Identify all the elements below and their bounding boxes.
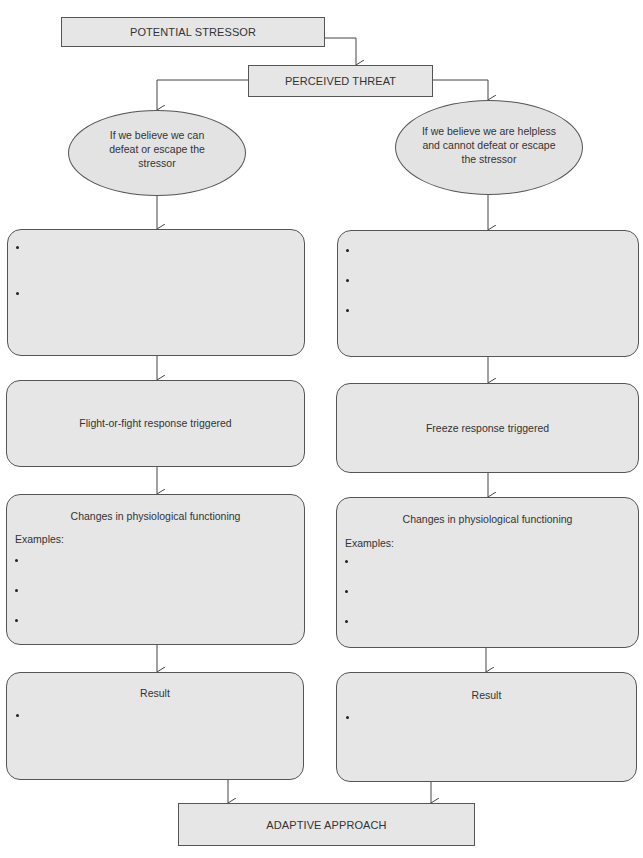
left-triggers-box bbox=[7, 229, 305, 356]
left-condition-label: If we believe we can defeat or escape th… bbox=[97, 128, 217, 170]
right-response-label: Freeze response triggered bbox=[337, 422, 638, 434]
adaptive-approach-label: ADAPTIVE APPROACH bbox=[266, 819, 386, 831]
left-examples-label: Examples: bbox=[15, 533, 64, 545]
potential-stressor-label: POTENTIAL STRESSOR bbox=[130, 26, 256, 38]
right-triggers-box bbox=[337, 230, 639, 357]
right-response-box: Freeze response triggered bbox=[336, 383, 639, 473]
right-changes-title: Changes in physiological functioning bbox=[337, 513, 638, 525]
left-changes-title: Changes in physiological functioning bbox=[7, 510, 304, 522]
bullet-point bbox=[346, 309, 349, 312]
potential-stressor-box: POTENTIAL STRESSOR bbox=[61, 17, 325, 47]
bullet-point bbox=[346, 279, 349, 282]
adaptive-approach-box: ADAPTIVE APPROACH bbox=[178, 803, 475, 846]
left-result-box: Result bbox=[6, 672, 304, 780]
bullet-point bbox=[345, 560, 348, 563]
left-response-box: Flight-or-fight response triggered bbox=[6, 380, 305, 467]
left-changes-box: Changes in physiological functioning Exa… bbox=[6, 494, 305, 645]
bullet-point bbox=[346, 249, 349, 252]
bullet-point bbox=[345, 590, 348, 593]
right-changes-box: Changes in physiological functioning Exa… bbox=[336, 497, 639, 648]
bullet-point bbox=[346, 716, 349, 719]
perceived-threat-box: PERCEIVED THREAT bbox=[248, 65, 433, 97]
bullet-point bbox=[16, 246, 19, 249]
left-condition-ellipse: If we believe we can defeat or escape th… bbox=[68, 110, 246, 196]
bullet-point bbox=[15, 559, 18, 562]
bullet-point bbox=[15, 589, 18, 592]
right-condition-label: If we believe we are helpless and cannot… bbox=[419, 124, 559, 166]
bullet-point bbox=[16, 292, 19, 295]
right-examples-label: Examples: bbox=[345, 537, 394, 549]
bullet-point bbox=[15, 619, 18, 622]
bullet-point bbox=[345, 620, 348, 623]
left-result-title: Result bbox=[7, 687, 303, 699]
perceived-threat-label: PERCEIVED THREAT bbox=[285, 75, 396, 87]
right-condition-ellipse: If we believe we are helpless and cannot… bbox=[395, 100, 583, 195]
left-response-label: Flight-or-fight response triggered bbox=[7, 417, 304, 429]
right-result-title: Result bbox=[337, 689, 636, 701]
bullet-point bbox=[16, 714, 19, 717]
right-result-box: Result bbox=[336, 672, 637, 782]
